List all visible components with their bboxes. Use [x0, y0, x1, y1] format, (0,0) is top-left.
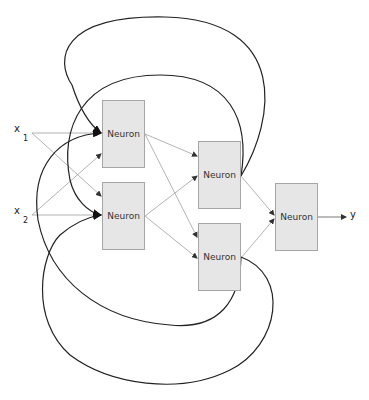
edge-n1-n3: [145, 134, 197, 156]
neuron-label: Neuron: [203, 252, 236, 262]
neuron-label: Neuron: [280, 212, 313, 222]
neuron-label: Neuron: [107, 211, 140, 221]
input-edges: [32, 133, 101, 215]
input-subscript-1: 1: [23, 134, 28, 143]
edge-n2-n3: [145, 176, 197, 216]
edge-n1-n4: [145, 134, 197, 237]
neuron-label: Neuron: [203, 170, 236, 180]
input-label-x2: x: [14, 205, 20, 216]
neuron-output: Neuron: [275, 183, 318, 251]
edge-n4-n5: [241, 219, 274, 258]
neuron-hidden2-bottom: Neuron: [198, 223, 241, 291]
neuron-hidden2-top: Neuron: [198, 141, 241, 209]
neuron-hidden1-top: Neuron: [102, 100, 145, 168]
input-label-x1: x: [14, 123, 20, 134]
edge-x2-n1: [32, 154, 101, 215]
edge-n3-n5: [241, 176, 274, 215]
output-label-y: y: [350, 209, 356, 220]
neuron-hidden1-bottom: Neuron: [102, 182, 145, 250]
neuron-label: Neuron: [107, 129, 140, 139]
input-subscript-2: 2: [23, 216, 28, 225]
